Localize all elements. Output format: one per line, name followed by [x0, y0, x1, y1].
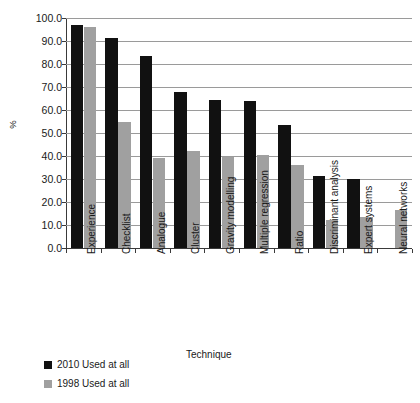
y-tick-mark	[62, 41, 66, 42]
bar-chart: % 100.090.080.070.060.050.040.030.020.01…	[0, 0, 420, 403]
y-tick-mark	[62, 87, 66, 88]
black-square-swatch	[44, 361, 52, 369]
gridline	[66, 18, 412, 19]
x-category-label: Neural networks	[399, 182, 409, 254]
y-tick-mark	[62, 18, 66, 19]
x-category-label: Experience	[87, 204, 97, 254]
gridline	[66, 64, 412, 65]
y-tick-mark	[62, 64, 66, 65]
y-tick-label: 30.0	[24, 174, 62, 184]
bar-2010	[209, 100, 222, 248]
gridline	[66, 87, 412, 88]
x-category-label: Checklist	[122, 213, 132, 254]
y-tick-label: 20.0	[24, 197, 62, 207]
chart-legend: 2010 Used at all1998 Used at all	[44, 355, 244, 393]
legend-item: 1998 Used at all	[44, 374, 244, 393]
y-tick-mark	[62, 179, 66, 180]
bar-2010	[140, 56, 153, 248]
bar-2010	[278, 125, 291, 248]
y-tick-label: 100.0	[24, 13, 62, 23]
bar-2010	[105, 38, 118, 248]
y-tick-mark	[62, 225, 66, 226]
x-tick-mark	[412, 249, 413, 253]
y-tick-label: 50.0	[24, 128, 62, 138]
gridline	[66, 110, 412, 111]
x-category-label: Gravity modelling	[226, 177, 236, 254]
bar-2010	[71, 25, 84, 248]
legend-label: 1998 Used at all	[57, 378, 129, 389]
gray-square-swatch	[44, 380, 52, 388]
x-category-label: Multiple regression	[260, 170, 270, 254]
bar-2010	[347, 179, 360, 248]
bar-2010	[313, 176, 326, 248]
y-tick-label: 80.0	[24, 59, 62, 69]
bar-2010	[174, 92, 187, 248]
clipped-chart-title	[40, 0, 340, 3]
x-category-label: Analogue	[157, 212, 167, 254]
x-category-label: Expert systems	[364, 186, 374, 254]
y-tick-label: 70.0	[24, 82, 62, 92]
y-tick-label: 90.0	[24, 36, 62, 46]
y-tick-label: 60.0	[24, 105, 62, 115]
y-tick-mark	[62, 133, 66, 134]
y-tick-label: 40.0	[24, 151, 62, 161]
plot-area	[66, 18, 412, 248]
y-tick-label: 10.0	[24, 220, 62, 230]
y-axis-title: %	[7, 120, 18, 128]
y-tick-mark	[62, 110, 66, 111]
y-axis-tick-labels: 100.090.080.070.060.050.040.030.020.010.…	[22, 0, 62, 403]
x-category-label: Discriminant analysis	[330, 160, 340, 254]
x-category-label: Ratio	[295, 231, 305, 254]
bar-2010	[244, 101, 257, 248]
legend-item: 2010 Used at all	[44, 355, 244, 374]
x-category-label: Cluster	[191, 222, 201, 254]
y-tick-mark	[62, 156, 66, 157]
legend-label: 2010 Used at all	[57, 359, 129, 370]
x-axis-category-labels: ExperienceChecklistAnalogueClusterGravit…	[66, 248, 412, 358]
y-tick-mark	[62, 202, 66, 203]
y-tick-label: 0.0	[24, 243, 62, 253]
gridline	[66, 41, 412, 42]
